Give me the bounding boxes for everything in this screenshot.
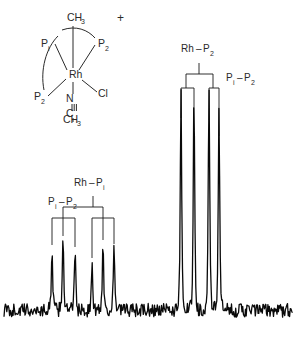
left-tree-secondary-a-sub: i	[55, 203, 57, 210]
methyl-top-subscript: 3	[81, 18, 85, 25]
charge-plus-label: +	[117, 11, 124, 25]
right-tree-secondary-a: P	[226, 72, 233, 83]
right-tree-secondary-b-sub: 2	[251, 79, 255, 86]
left-tree: Rh – P i P i – P 2	[48, 177, 114, 258]
right-tree: Rh – P 2 P i – P 2	[181, 43, 255, 136]
right-tree-primary-b-sub: 2	[210, 50, 214, 57]
methyl-bottom-label: CH	[63, 113, 78, 125]
nmr-figure-svg: + CH 3 Rh P i P 2 P 2 Cl N C CH 3	[0, 0, 297, 337]
phosphorus-1-label: P	[41, 37, 48, 49]
phosphorus-2-bottom-label: P	[34, 90, 41, 102]
bond-rh-cl	[82, 80, 97, 92]
left-tree-secondary-a: P	[48, 196, 55, 207]
left-tree-primary-b-sub: i	[103, 184, 105, 191]
right-tree-lines	[181, 63, 219, 136]
structure-diagram: + CH 3 Rh P i P 2 P 2 Cl N C CH 3	[34, 11, 124, 127]
phosphorus-2-bottom-subscript: 2	[41, 98, 45, 105]
left-tree-primary-b: P	[96, 177, 103, 188]
chloride-label: Cl	[98, 87, 108, 99]
left-tree-secondary-dash: –	[59, 196, 65, 207]
rhodium-center-label: Rh	[69, 68, 83, 80]
left-tree-primary-a: Rh	[74, 177, 87, 188]
right-tree-primary-b: P	[203, 43, 210, 54]
bond-rh-p2top	[79, 45, 95, 70]
phosphorus-2-top-subscript: 2	[105, 45, 109, 52]
chelate-arc-top	[62, 28, 95, 38]
figure-root: + CH 3 Rh P i P 2 P 2 Cl N C CH 3	[0, 0, 297, 337]
methyl-top-label: CH	[67, 11, 82, 23]
bond-rh-p1	[55, 44, 67, 70]
right-tree-secondary-a-sub: i	[233, 79, 235, 86]
right-tree-secondary-b: P	[244, 72, 251, 83]
right-tree-primary-dash: –	[196, 43, 202, 54]
left-tree-secondary-b-sub: 2	[73, 203, 77, 210]
left-tree-secondary-b: P	[66, 196, 73, 207]
right-tree-primary-a: Rh	[181, 43, 194, 54]
right-tree-secondary-dash: –	[237, 72, 243, 83]
bond-rh-p2bottom	[48, 79, 66, 96]
left-tree-primary-dash: –	[89, 177, 95, 188]
methyl-bottom-subscript: 3	[77, 120, 81, 127]
phosphorus-2-top-label: P	[98, 37, 105, 49]
nitrogen-label: N	[66, 92, 74, 104]
